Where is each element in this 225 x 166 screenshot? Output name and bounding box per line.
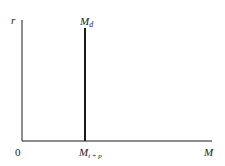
x-axis-label: M [203, 146, 214, 158]
money-demand-diagram: r Md 0 Mt + p M [0, 0, 225, 166]
y-axis-label: r [11, 14, 16, 26]
origin-label: 0 [15, 146, 21, 158]
money-demand-label: Md [79, 15, 94, 29]
x-tick-label: Mt + p [78, 146, 102, 160]
